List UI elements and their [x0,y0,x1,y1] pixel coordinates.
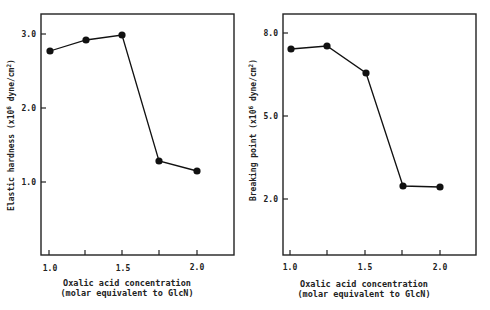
data-point [399,182,406,189]
plot-frame [283,14,476,255]
data-point [323,42,330,49]
x-tick-label: 2.0 [190,263,205,272]
elastic-hardness-plot: 3.0 2.0 1.0 1.0 1.5 2.0 Oxalic acid conc… [0,0,245,310]
x-tick-label: 1.5 [116,264,131,273]
x-tick-label: 1.0 [43,264,58,273]
data-line [50,35,197,171]
data-point [287,45,294,52]
y-axis-title: Elastic hardness (x106 dyne/cm2) [5,59,16,211]
x-axis-title-line2: (molar equivalent to GlcN) [297,289,430,299]
y-tick-label: 1.0 [22,178,37,187]
y-tick-label: 2.0 [264,195,279,204]
data-point [362,69,369,76]
x-tick-label: 2.0 [433,263,448,272]
y-tick-label: 2.0 [22,104,37,113]
data-point [155,157,162,164]
y-tick-label: 5.0 [264,112,279,121]
x-axis-title-line2: (molar equivalent to GlcN) [60,288,193,298]
y-axis-title: Breaking point (x106 dyne/cm2) [247,59,258,201]
elastic-hardness-chart: 3.0 2.0 1.0 1.0 1.5 2.0 Oxalic acid conc… [0,0,245,310]
x-axis-title-line1: Oxalic acid concentration [63,278,191,288]
data-point [82,36,89,43]
data-line [291,46,440,187]
data-point [46,47,53,54]
breaking-point-chart: 8.0 5.0 2.0 1.0 1.5 2.0 Oxalic acid conc… [245,0,490,310]
breaking-point-plot: 8.0 5.0 2.0 1.0 1.5 2.0 Oxalic acid conc… [245,0,490,310]
x-tick-label: 1.0 [283,263,298,272]
x-axis-title-line1: Oxalic acid concentration [300,279,428,289]
data-point [436,183,443,190]
data-point [118,31,125,38]
y-tick-label: 8.0 [264,29,279,38]
data-point [193,167,200,174]
y-tick-label: 3.0 [22,30,37,39]
x-tick-label: 1.5 [358,263,373,272]
plot-frame [41,14,234,255]
